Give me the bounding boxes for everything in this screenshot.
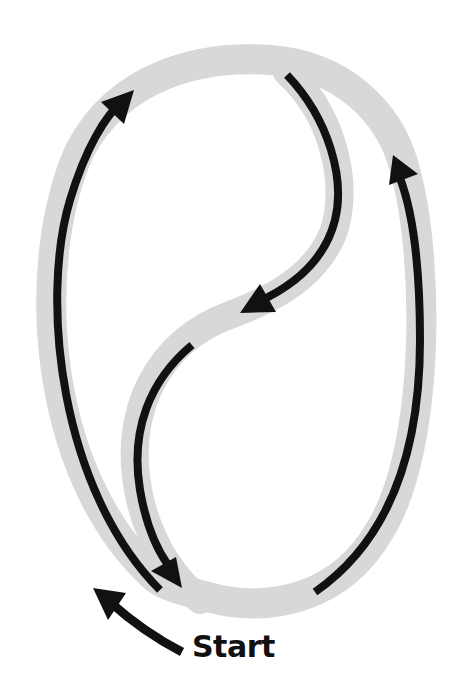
start-arrow-shaft	[110, 602, 182, 652]
s-curve-track	[135, 72, 340, 600]
track-diagram	[0, 0, 468, 695]
start-label: Start	[192, 632, 275, 662]
